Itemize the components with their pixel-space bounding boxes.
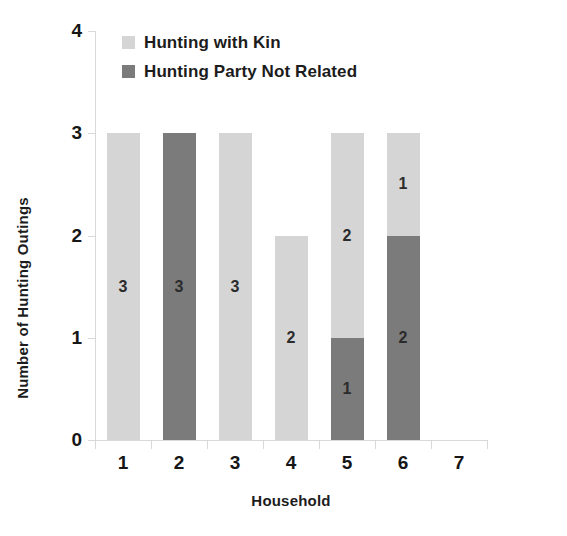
bar-segment-5-not-related[interactable]: 1 [331, 338, 364, 440]
legend-swatch-dark [122, 65, 135, 78]
legend-item-hunting-with-kin[interactable]: Hunting with Kin [122, 28, 357, 57]
bar-value-label: 3 [231, 279, 240, 295]
y-axis-title: Number of Hunting Outings [0, 0, 44, 536]
x-tick-4 [319, 441, 320, 449]
x-tick-0 [95, 441, 96, 449]
x-tick-label-5: 5 [319, 452, 375, 474]
legend-label-hunting-with-kin: Hunting with Kin [144, 33, 281, 53]
bar-household-6[interactable]: 21 [387, 133, 420, 440]
legend-label-hunting-party-not-related: Hunting Party Not Related [144, 62, 357, 82]
y-tick-4 [88, 31, 95, 32]
y-tick-label-0: 0 [48, 429, 82, 451]
bar-segment-6-not-related[interactable]: 2 [387, 236, 420, 441]
bar-segment-5-kin[interactable]: 2 [331, 133, 364, 338]
bar-household-4[interactable]: 2 [275, 236, 308, 441]
x-tick-label-4: 4 [263, 452, 319, 474]
legend-item-hunting-party-not-related[interactable]: Hunting Party Not Related [122, 57, 357, 86]
bar-segment-4-kin[interactable]: 2 [275, 236, 308, 441]
x-tick-label-7: 7 [431, 452, 487, 474]
x-tick-7 [487, 441, 488, 449]
x-tick-1 [151, 441, 152, 449]
x-tick-5 [375, 441, 376, 449]
bar-household-5[interactable]: 12 [331, 133, 364, 440]
bar-value-label: 3 [119, 279, 128, 295]
bar-value-label: 3 [175, 279, 184, 295]
x-tick-label-3: 3 [207, 452, 263, 474]
x-tick-2 [207, 441, 208, 449]
bar-household-2[interactable]: 3 [163, 133, 196, 440]
y-tick-1 [88, 338, 95, 339]
x-axis-title: Household [95, 492, 487, 509]
bar-value-label: 2 [287, 330, 296, 346]
y-tick-0 [88, 440, 95, 441]
bar-household-3[interactable]: 3 [219, 133, 252, 440]
plot-area: 33321221 [95, 31, 487, 440]
y-tick-label-1: 1 [48, 327, 82, 349]
x-tick-3 [263, 441, 264, 449]
bar-value-label: 2 [399, 330, 408, 346]
bar-segment-6-kin[interactable]: 1 [387, 133, 420, 235]
y-tick-label-3: 3 [48, 122, 82, 144]
x-tick-label-2: 2 [151, 452, 207, 474]
y-tick-2 [88, 236, 95, 237]
legend-swatch-light [122, 36, 135, 49]
bar-value-label: 1 [343, 381, 352, 397]
x-tick-label-6: 6 [375, 452, 431, 474]
bar-segment-2-not-related[interactable]: 3 [163, 133, 196, 440]
bar-segment-1-kin[interactable]: 3 [107, 133, 140, 440]
chart-container: Number of Hunting Outings 01234 33321221… [0, 0, 567, 536]
bar-value-label: 1 [399, 176, 408, 192]
x-axis-line [95, 440, 488, 441]
y-tick-3 [88, 133, 95, 134]
x-tick-6 [431, 441, 432, 449]
bar-value-label: 2 [343, 228, 352, 244]
y-tick-label-4: 4 [48, 20, 82, 42]
x-tick-label-1: 1 [95, 452, 151, 474]
bar-segment-3-kin[interactable]: 3 [219, 133, 252, 440]
chart-legend: Hunting with Kin Hunting Party Not Relat… [122, 28, 357, 86]
y-tick-label-2: 2 [48, 225, 82, 247]
bar-household-1[interactable]: 3 [107, 133, 140, 440]
